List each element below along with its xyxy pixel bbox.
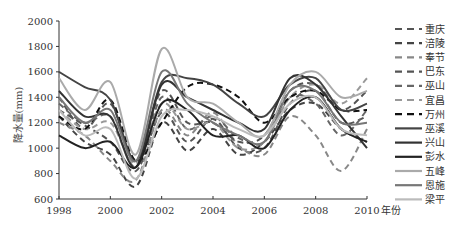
- legend-label: 万州: [425, 109, 445, 120]
- legend-label: 涪陵: [425, 37, 445, 49]
- legend-label: 奉节: [425, 51, 445, 63]
- y-tick-label: 1800: [28, 41, 53, 52]
- legend-label: 兴山: [425, 137, 445, 148]
- series-line-5: [59, 78, 367, 163]
- x-axis-label: 年份: [381, 204, 401, 216]
- x-tick-label: 2000: [98, 205, 123, 216]
- x-tick-label: 2002: [149, 205, 174, 216]
- y-tick-label: 1000: [28, 143, 53, 154]
- y-tick-label: 1400: [28, 92, 53, 103]
- y-tick-label: 600: [34, 194, 53, 205]
- legend-label: 重庆: [425, 23, 445, 35]
- legend-label: 巫溪: [425, 123, 445, 134]
- x-tick-label: 2010: [354, 205, 379, 216]
- legend-label: 巴东: [425, 65, 445, 77]
- x-tick-label: 2004: [200, 205, 225, 216]
- legend-label: 恩施: [425, 179, 445, 191]
- chart-series: [59, 48, 367, 187]
- y-tick-label: 2000: [28, 16, 53, 27]
- y-tick-label: 800: [34, 168, 53, 179]
- y-tick-label: 1200: [28, 117, 53, 128]
- legend-label: 五峰: [425, 166, 445, 177]
- y-tick-label: 1600: [28, 66, 53, 77]
- legend-label: 宜昌: [425, 94, 445, 106]
- chart-legend: 重庆涪陵奉节巴东巫山宜昌万州巫溪兴山彭水五峰恩施梁平: [395, 23, 445, 205]
- x-tick-label: 2006: [252, 205, 277, 216]
- precipitation-line-chart: 6008001000120014001600180020001998200020…: [0, 0, 456, 232]
- y-axis-label: 降水量(mm): [12, 87, 24, 144]
- x-tick-label: 2008: [303, 205, 328, 216]
- legend-label: 巫山: [425, 80, 445, 91]
- legend-label: 梁平: [425, 193, 445, 205]
- legend-label: 彭水: [425, 150, 445, 162]
- x-tick-label: 1998: [46, 205, 71, 216]
